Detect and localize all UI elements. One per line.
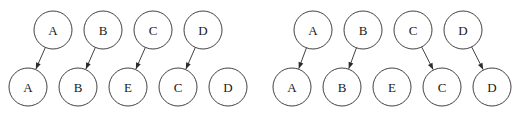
node-bottom-2-e[interactable]: E	[109, 68, 147, 106]
arrow-head-icon	[349, 62, 354, 69]
node-label: D	[487, 80, 496, 95]
arrow-head-icon	[299, 62, 304, 69]
edge-b-to-b	[349, 46, 357, 68]
node-label: B	[74, 80, 83, 95]
node-bottom-0-a[interactable]: A	[273, 68, 311, 106]
node-top-1-b[interactable]: B	[344, 11, 382, 49]
edge-d-to-c	[186, 46, 196, 69]
node-label: D	[458, 23, 467, 38]
edge-a-to-a	[299, 46, 307, 68]
arrow-head-icon	[136, 62, 141, 69]
arrow-head-icon	[36, 62, 41, 69]
edge-group	[299, 46, 484, 70]
node-bottom-2-e[interactable]: E	[373, 68, 411, 106]
node-top-3-d[interactable]: D	[184, 11, 222, 49]
node-bottom-3-c[interactable]: C	[159, 68, 197, 106]
bottom-row-group: ABECD	[9, 68, 247, 106]
right-diagram: ABCDABECD	[273, 11, 511, 106]
arrow-head-icon	[86, 62, 91, 69]
top-row-group: ABCD	[34, 11, 222, 49]
node-bottom-4-d[interactable]: D	[209, 68, 247, 106]
node-bottom-1-b[interactable]: B	[323, 68, 361, 106]
node-label: B	[338, 80, 347, 95]
left-diagram: ABCDABECD	[9, 11, 247, 106]
arrow-head-icon	[428, 63, 433, 70]
edge-c-to-c	[421, 46, 433, 70]
node-label: A	[48, 23, 58, 38]
top-row-group: ABCD	[294, 11, 482, 49]
node-top-1-b[interactable]: B	[84, 11, 122, 49]
edge-group	[36, 46, 196, 69]
node-label: D	[198, 23, 207, 38]
node-top-3-d[interactable]: D	[444, 11, 482, 49]
node-label: C	[149, 23, 158, 38]
node-bottom-1-b[interactable]: B	[59, 68, 97, 106]
node-top-2-c[interactable]: C	[134, 11, 172, 49]
edge-a-to-a	[36, 46, 46, 69]
node-top-0-a[interactable]: A	[34, 11, 72, 49]
node-label: C	[174, 80, 183, 95]
node-label: A	[308, 23, 318, 38]
node-top-0-a[interactable]: A	[294, 11, 332, 49]
edge-c-to-e	[136, 46, 146, 69]
bottom-row-group: ABECD	[273, 68, 511, 106]
node-top-2-c[interactable]: C	[394, 11, 432, 49]
edge-d-to-d	[471, 46, 483, 70]
node-label: B	[99, 23, 108, 38]
edge-b-to-b	[86, 46, 96, 69]
node-label: B	[359, 23, 368, 38]
arrow-head-icon	[186, 62, 191, 69]
node-bottom-3-c[interactable]: C	[423, 68, 461, 106]
node-label: E	[388, 80, 396, 95]
node-label: A	[23, 80, 33, 95]
diagram-figure: ABCDABECDABCDABECD	[0, 0, 518, 116]
node-label: E	[124, 80, 132, 95]
node-label: A	[287, 80, 297, 95]
node-label: C	[438, 80, 447, 95]
node-label: D	[223, 80, 232, 95]
diagram-canvas: ABCDABECDABCDABECD	[0, 0, 518, 116]
node-bottom-0-a[interactable]: A	[9, 68, 47, 106]
arrow-head-icon	[478, 63, 483, 70]
node-bottom-4-d[interactable]: D	[473, 68, 511, 106]
node-label: C	[409, 23, 418, 38]
